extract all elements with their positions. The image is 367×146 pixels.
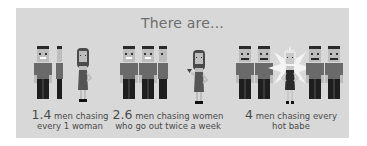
panel-3-line2: hot babe [272,121,310,131]
man-figure-icon [325,46,343,99]
panel-2-line2: who go out twice a week [115,121,221,131]
partial-man-figure-icon [56,46,63,99]
panel-1-caption: 1.4 men chasing every 1 woman [24,110,116,131]
infographic-card: There are... [16,8,349,138]
panel-1-line2: every 1 woman [37,121,103,131]
partial-man-figure-icon [158,46,168,99]
man-figure-icon [306,46,324,99]
man-figure-icon [120,46,138,99]
man-figure-icon [139,46,157,99]
woman-figure-icon [77,48,91,102]
panel-2-figures [120,46,230,108]
panel-2-caption: 2.6 men chasing women who go out twice a… [112,110,224,131]
panel-1-line1: men chasing [51,111,108,121]
panel-2-line1: men chasing women [132,111,223,121]
panel-2-number: 2.6 [113,107,133,122]
man-figure-icon [34,46,52,99]
panel-3-figures [236,46,346,108]
infographic-title: There are... [16,15,349,31]
man-figure-icon [255,46,273,99]
panel-1-number: 1.4 [31,107,51,122]
woman-with-drink-figure-icon [187,50,207,104]
man-figure-icon [236,46,254,99]
panel-3-number: 4 [245,107,253,122]
panel-3-caption: 4 men chasing every hot babe [238,110,344,131]
panel-1-figures [30,46,110,108]
panel-3-line1: men chasing every [253,111,337,121]
